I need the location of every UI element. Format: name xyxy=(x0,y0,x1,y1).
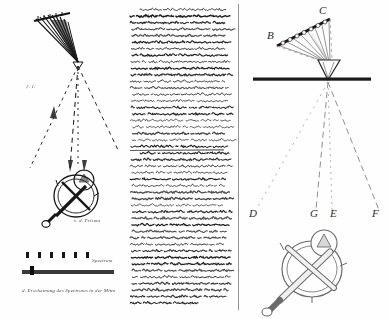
aperture-bar xyxy=(277,19,330,46)
caption-bottom: d. Erscheinung des Spectrums in der Mitt… xyxy=(22,288,115,293)
left-sketch-svg xyxy=(0,0,128,319)
envelope-dashed-2 xyxy=(277,46,324,62)
text-column-right-rule xyxy=(238,4,239,310)
screen-bar xyxy=(253,78,371,81)
label-E: E xyxy=(330,208,337,219)
divergent-dashed-rays xyxy=(30,66,118,168)
ray-arrow-a xyxy=(68,160,73,172)
ink-sketch-panel: ƒ. 1. v. d. Prisma Spectrum d. Erscheinu… xyxy=(0,0,128,319)
label-G: G xyxy=(310,208,318,219)
manuscript-page: ƒ. 1. v. d. Prisma Spectrum d. Erscheinu… xyxy=(0,0,389,319)
prism xyxy=(318,60,340,80)
ray-to-D xyxy=(256,82,328,210)
ray-to-G xyxy=(316,82,328,210)
spectrum-strip xyxy=(22,266,114,275)
label-F: F xyxy=(372,208,379,219)
note-near-instrument: v. d. Prisma xyxy=(74,218,100,223)
manuscript-text-column xyxy=(128,0,240,319)
refracted-rays xyxy=(256,82,379,210)
converging-ray-fan xyxy=(34,12,78,62)
prism-instrument-drawing xyxy=(262,230,347,316)
label-B: B xyxy=(267,30,274,41)
spectrum-tick-marks xyxy=(26,252,89,258)
note-near-rays: ƒ. 1. xyxy=(26,84,36,89)
label-C: C xyxy=(319,5,326,16)
ray-to-E xyxy=(328,82,332,210)
caption-spectrum: Spectrum xyxy=(92,258,112,263)
optical-diagram-panel: B C D G E F xyxy=(240,0,389,319)
envelope-dashed xyxy=(330,19,332,60)
ray-to-F xyxy=(328,82,379,210)
label-D: D xyxy=(249,208,257,219)
optical-diagram-svg xyxy=(240,0,389,319)
light-wedge xyxy=(50,20,78,62)
handwriting-svg xyxy=(128,0,240,319)
